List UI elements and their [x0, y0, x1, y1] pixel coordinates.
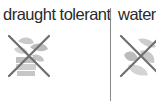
crossed-out-plant-icon [6, 33, 52, 79]
column-label: draught tolerant [3, 6, 111, 23]
column-water: water [113, 0, 156, 101]
column-divider [110, 8, 111, 101]
crossed-out-plant-icon [118, 33, 156, 79]
column-draught-tolerant: draught tolerant [0, 0, 110, 101]
column-label: water [118, 6, 156, 23]
